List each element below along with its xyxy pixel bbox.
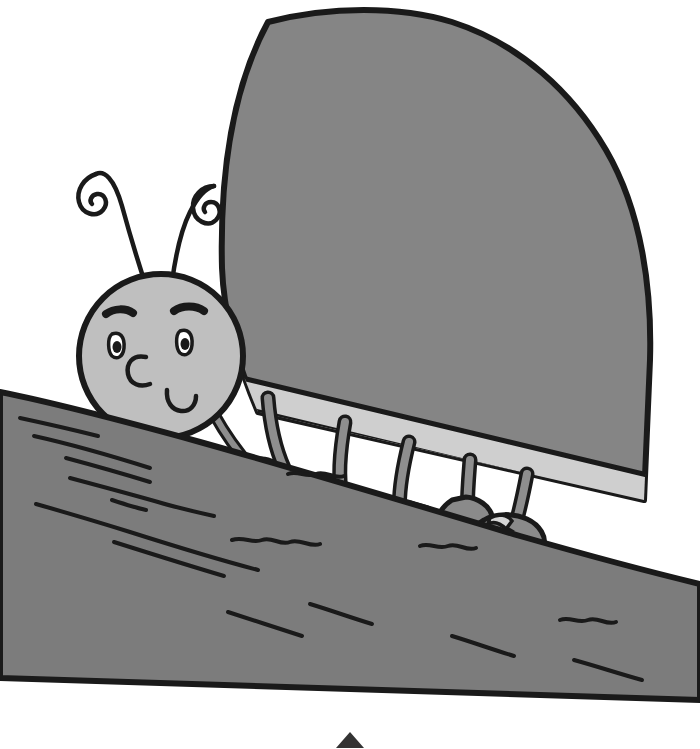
antenna-right — [172, 186, 220, 282]
eye-right — [177, 330, 193, 355]
eyebrow-left — [106, 309, 133, 314]
antenna-left — [78, 173, 148, 292]
eye-left — [109, 333, 125, 358]
illustration-canvas: Cartoon snail climbing uphill A smiling … — [0, 0, 700, 749]
shell — [222, 10, 660, 508]
chevron-up-icon[interactable] — [336, 732, 364, 748]
eyebrow-right — [174, 307, 204, 312]
snail-illustration — [0, 0, 700, 749]
